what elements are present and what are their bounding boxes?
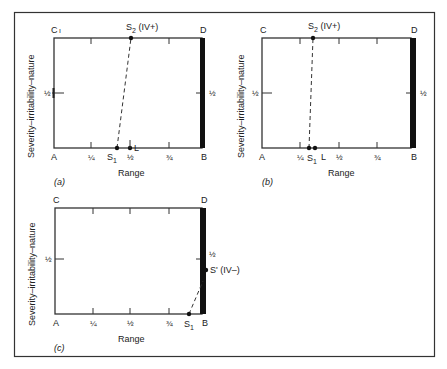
panel-c-label-s-prime: S' (IV–) [210, 265, 240, 275]
panel-a-corner-d: D [200, 25, 207, 35]
panel-a-label-l: L [134, 143, 139, 153]
panel-c-ytick-right: ½ [209, 250, 216, 259]
panel-b-point-l [313, 146, 317, 150]
panel-c-box [55, 208, 202, 314]
panel-b-label-l: L [321, 152, 326, 162]
panel-c-corner-d: D [201, 195, 208, 205]
panel-c-point-s1 [187, 312, 191, 316]
panel-a-caption: (a) [54, 177, 65, 187]
panel-b-point-s2 [311, 36, 315, 40]
panel-a-corner-b: B [201, 152, 207, 162]
panel-a-point-s1 [115, 146, 119, 150]
panel-b-xtick-three-quarter: ¾ [374, 153, 381, 162]
panel-a-corner-a: A [51, 152, 57, 162]
panel-a: C ı D A B ¼ ½ ¾ ½ ½ Severity–irritabilit… [26, 22, 216, 187]
panel-b-corner-b: B [411, 152, 417, 162]
panel-b-dashed-line [309, 38, 313, 148]
panel-c-label-s1: S1 [184, 319, 194, 331]
figure-diagram: C ı D A B ¼ ½ ¾ ½ ½ Severity–irritabilit… [0, 0, 447, 369]
panel-c-xtick-half: ½ [127, 319, 134, 328]
panel-b-x-axis-label: Range [328, 168, 355, 178]
panel-c-point-s-prime [204, 268, 208, 272]
panel-c-xtick-three-quarter: ¾ [166, 319, 173, 328]
panel-a-y-axis-label: Severity–irritability–nature [26, 54, 36, 158]
panel-a-ytick-right: ½ [209, 89, 216, 98]
panel-c-corner-a: A [53, 318, 59, 328]
panel-b-ytick-right: ½ [420, 89, 427, 98]
panel-b-label-s1: S1 [307, 153, 317, 165]
panel-a-label-s2: S2 (IV+) [126, 22, 158, 34]
panel-b: C D A B ¼ ½ ¾ ½ ½ Severity–irritability–… [236, 21, 427, 187]
panel-b-caption: (b) [262, 177, 273, 187]
panel-a-label-s1: S1 [107, 152, 117, 164]
panel-c-corner-b: B [202, 318, 208, 328]
panel-c-xtick-quarter: ¼ [90, 319, 97, 328]
panel-a-corner-c: C [51, 25, 58, 35]
panel-c-d-b-bar [200, 208, 206, 314]
panel-a-x-axis-label: Range [118, 168, 145, 178]
panel-b-xtick-half: ½ [336, 153, 343, 162]
panel-b-corner-a: A [259, 152, 265, 162]
panel-b-corner-d: D [411, 25, 418, 35]
svg-text:ı: ı [59, 27, 61, 34]
panel-a-xtick-three-quarter: ¾ [166, 153, 173, 162]
panel-c-corner-c: C [53, 195, 60, 205]
panel-c-caption: (c) [54, 343, 65, 353]
panel-a-xtick-half: ½ [127, 153, 134, 162]
panel-b-label-s2: S2 (IV+) [308, 21, 340, 33]
panel-b-xtick-quarter: ¼ [297, 153, 304, 162]
panel-a-xtick-quarter: ¼ [88, 153, 95, 162]
panel-c-y-axis-label: Severity–irritability–nature [27, 222, 37, 326]
panel-a-point-s2 [129, 36, 133, 40]
panel-c-ytick-left: ½ [45, 255, 52, 264]
panel-a-ytick-left: ½ [44, 89, 51, 98]
panel-b-corner-c: C [260, 25, 267, 35]
panel-b-y-axis-label: Severity–irritability–nature [236, 54, 246, 158]
panel-a-d-b-bar [200, 38, 205, 148]
panel-b-d-b-bar [410, 38, 416, 148]
panel-b-box [262, 38, 411, 148]
panel-a-box [54, 38, 202, 148]
panel-b-ytick-left: ½ [252, 89, 259, 98]
outer-frame [15, 13, 435, 357]
panel-a-dashed-line [117, 38, 131, 148]
panel-b-point-s1 [307, 146, 311, 150]
panel-c: C D A B ¼ ½ ¾ ½ ½ Severity–irritability–… [27, 195, 240, 353]
panel-c-x-axis-label: Range [118, 334, 145, 344]
